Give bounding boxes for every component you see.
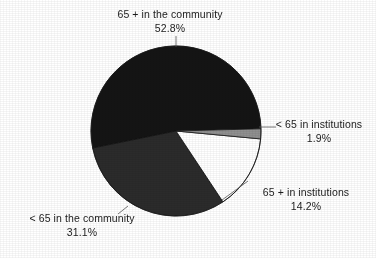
pie-label-65plus-community-text: 65 + in the community — [92, 8, 248, 22]
pie-label-under65-community-percent: 31.1% — [6, 226, 158, 240]
pie-label-65plus-community-percent: 52.8% — [92, 22, 248, 36]
pie-label-65plus-institutions-text: 65 + in institutions — [240, 186, 372, 200]
pie-label-under65-institutions: < 65 in institutions 1.9% — [262, 118, 376, 145]
pie-label-under65-community-text: < 65 in the community — [6, 212, 158, 226]
pie-label-under65-institutions-text: < 65 in institutions — [262, 118, 376, 132]
pie-label-65plus-community: 65 + in the community 52.8% — [92, 8, 248, 35]
pie-label-under65-institutions-percent: 1.9% — [262, 132, 376, 146]
pie-label-65plus-institutions: 65 + in institutions 14.2% — [240, 186, 372, 213]
pie-chart: 65 + in the community 52.8% < 65 in inst… — [0, 0, 376, 258]
pie-label-65plus-institutions-percent: 14.2% — [240, 200, 372, 214]
pie-label-under65-community: < 65 in the community 31.1% — [6, 212, 158, 239]
